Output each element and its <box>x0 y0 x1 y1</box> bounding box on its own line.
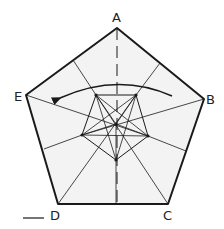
outer-pentagon <box>26 28 204 204</box>
label-b: B <box>206 92 215 107</box>
label-a: A <box>112 10 121 25</box>
pentagon-diagram: A B C D E <box>0 0 224 229</box>
label-e: E <box>14 89 22 104</box>
label-c: C <box>163 208 172 223</box>
label-d: D <box>50 208 60 223</box>
